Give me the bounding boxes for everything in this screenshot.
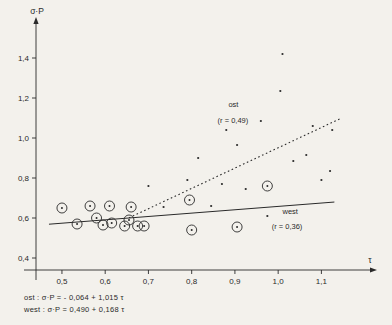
data-point-ost bbox=[266, 215, 268, 217]
x-axis-label: τ bbox=[368, 255, 372, 265]
data-point-center-west bbox=[191, 229, 193, 231]
data-point-center-west bbox=[102, 224, 104, 226]
x-axis-arrow bbox=[370, 267, 377, 272]
data-point-ost bbox=[245, 188, 247, 190]
data-point-ost bbox=[162, 206, 164, 208]
x-tick-label: 1,1 bbox=[316, 277, 328, 286]
data-point-center-west bbox=[137, 225, 139, 227]
data-point-ost bbox=[292, 160, 294, 162]
data-point-ost bbox=[221, 183, 223, 185]
x-tick-label: 1,0 bbox=[273, 277, 285, 286]
x-tick-label: 0,9 bbox=[229, 277, 241, 286]
footer-equation-0: ost : σ·P = - 0,064 + 1,015 τ bbox=[24, 293, 124, 302]
data-point-ost bbox=[210, 205, 212, 207]
x-tick-label: 0,7 bbox=[143, 277, 155, 286]
data-point-ost bbox=[225, 129, 227, 131]
ost-r-label: (r = 0,49) bbox=[218, 116, 249, 125]
regression-line-ost bbox=[129, 118, 341, 217]
data-point-center-west bbox=[89, 205, 91, 207]
data-point-center-west bbox=[128, 219, 130, 221]
ost-label: ost bbox=[228, 100, 239, 109]
data-point-center-west bbox=[143, 225, 145, 227]
y-axis-arrow bbox=[33, 17, 38, 24]
data-point-center-west bbox=[111, 222, 113, 224]
x-tick-label: 0,5 bbox=[56, 277, 68, 286]
data-point-ost bbox=[260, 120, 262, 122]
data-point-center-west bbox=[130, 206, 132, 208]
data-point-ost bbox=[197, 157, 199, 159]
y-tick-label: 0,4 bbox=[18, 254, 30, 263]
data-point-ost bbox=[331, 129, 333, 131]
y-tick-label: 1,0 bbox=[18, 134, 30, 143]
y-axis-label: σ·P bbox=[30, 6, 44, 16]
data-point-ost bbox=[320, 179, 322, 181]
west-label: west bbox=[281, 207, 298, 216]
data-point-center-west bbox=[266, 185, 268, 187]
data-point-center-west bbox=[76, 223, 78, 225]
data-point-ost bbox=[305, 154, 307, 156]
y-tick-label: 1,2 bbox=[18, 94, 30, 103]
footer-equation-1: west : σ·P = 0,490 + 0,168 τ bbox=[23, 305, 124, 314]
data-point-ost bbox=[329, 170, 331, 172]
data-point-center-west bbox=[189, 199, 191, 201]
data-point-center-west bbox=[109, 205, 111, 207]
data-point-ost bbox=[281, 53, 283, 55]
data-point-ost bbox=[186, 179, 188, 181]
data-point-ost bbox=[236, 144, 238, 146]
data-point-ost bbox=[147, 185, 149, 187]
x-tick-label: 0,6 bbox=[100, 277, 112, 286]
data-point-center-west bbox=[236, 226, 238, 228]
chart-canvas: σ·Pτ0,40,60,81,01,21,40,50,60,70,80,91,0… bbox=[0, 0, 392, 325]
x-tick-label: 0,8 bbox=[186, 277, 198, 286]
y-tick-label: 1,4 bbox=[18, 54, 30, 63]
data-point-center-west bbox=[124, 225, 126, 227]
data-point-ost bbox=[279, 90, 281, 92]
data-point-center-west bbox=[96, 217, 98, 219]
data-point-center-west bbox=[61, 207, 63, 209]
west-r-label: (r = 0,36) bbox=[272, 222, 303, 231]
data-point-ost bbox=[312, 125, 314, 127]
y-tick-label: 0,6 bbox=[18, 214, 30, 223]
y-tick-label: 0,8 bbox=[18, 174, 30, 183]
